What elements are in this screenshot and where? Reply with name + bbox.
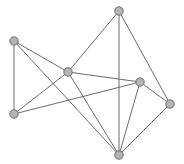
- graph-edge: [68, 72, 140, 82]
- graph-edge: [14, 41, 68, 72]
- graph-edge: [68, 11, 119, 72]
- graph-edge: [119, 11, 170, 104]
- graph-node: [115, 151, 123, 159]
- node-layer: [10, 7, 174, 159]
- graph-node: [115, 7, 123, 15]
- graph-node: [136, 78, 144, 86]
- graph-figure: [0, 0, 184, 164]
- graph-edge: [68, 72, 119, 155]
- graph-node: [10, 37, 18, 45]
- edge-layer: [14, 11, 170, 155]
- graph-node: [166, 100, 174, 108]
- graph-edge: [14, 72, 68, 114]
- graph-edge: [14, 41, 119, 155]
- graph-canvas: [0, 0, 184, 164]
- graph-node: [64, 68, 72, 76]
- graph-node: [10, 110, 18, 118]
- graph-edge: [140, 82, 170, 104]
